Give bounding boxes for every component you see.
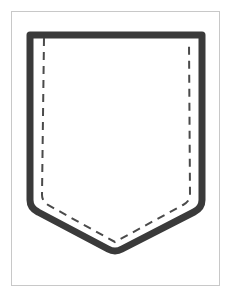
- stitch-line: [42, 38, 190, 242]
- pocket-outline: [30, 35, 202, 251]
- stitch-line-outer: [33, 44, 39, 209]
- pocket-diagram: [0, 0, 232, 299]
